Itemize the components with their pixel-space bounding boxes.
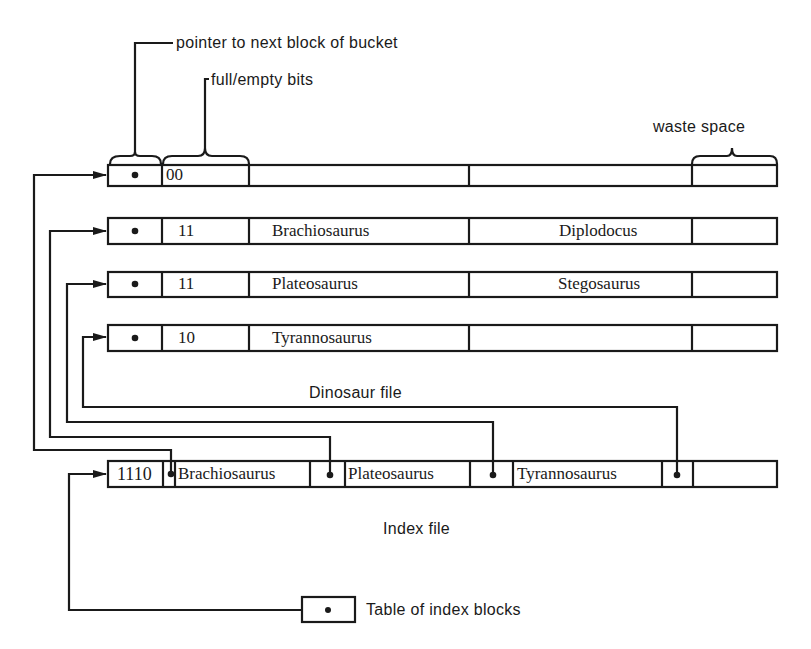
record-1: Brachiosaurus bbox=[272, 221, 369, 241]
bits-value: 11 bbox=[178, 274, 194, 294]
pointer-annotation: pointer to next block of bucket bbox=[176, 33, 398, 53]
index-bits: 1110 bbox=[117, 464, 152, 484]
dinosaur-file-caption: Dinosaur file bbox=[309, 383, 402, 403]
block-outline-4 bbox=[108, 325, 777, 351]
record-2: Stegosaurus bbox=[558, 274, 640, 294]
block-outline-1 bbox=[108, 165, 777, 186]
pointer-callout bbox=[110, 43, 173, 164]
index-key-1: Brachiosaurus bbox=[178, 464, 275, 484]
index-file-caption: Index file bbox=[383, 519, 450, 539]
link-tyrannosaurus-to-block3 bbox=[67, 284, 493, 474]
index-key-2: Plateosaurus bbox=[348, 464, 434, 484]
bits-value: 11 bbox=[178, 221, 194, 241]
record-2: Diplodocus bbox=[559, 221, 637, 241]
bits-value: 10 bbox=[178, 328, 195, 348]
waste-callout bbox=[692, 148, 777, 164]
diagram-lines bbox=[0, 0, 811, 649]
table-of-index-blocks-label: Table of index blocks bbox=[366, 600, 521, 620]
link-table-to-index bbox=[69, 474, 302, 610]
record-1: Plateosaurus bbox=[272, 274, 358, 294]
block-outline-2 bbox=[108, 218, 777, 244]
bits-value: 00 bbox=[166, 165, 183, 185]
index-key-3: Tyrannosaurus bbox=[517, 464, 617, 484]
record-1: Tyrannosaurus bbox=[272, 328, 372, 348]
bits-annotation: full/empty bits bbox=[211, 70, 313, 90]
link-plateosaurus-to-block2 bbox=[50, 231, 330, 474]
block-outline-3 bbox=[108, 272, 777, 297]
bits-callout bbox=[163, 79, 249, 164]
waste-annotation: waste space bbox=[653, 117, 745, 137]
